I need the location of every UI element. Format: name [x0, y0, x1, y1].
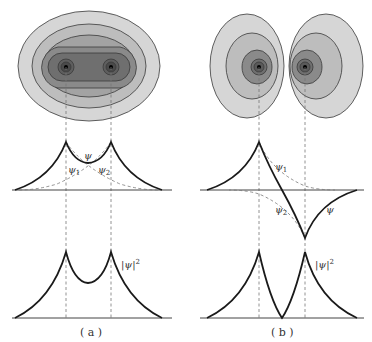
panel-b: ψ1 ψ2 ψ |ψ|2 ( b ): [200, 14, 364, 339]
density-curve: [207, 252, 357, 318]
psi2-label: ψ2: [275, 204, 287, 217]
psi-label: ψ: [326, 204, 334, 215]
density-label: |ψ|2: [121, 258, 140, 271]
panel-b-wavefunction-plot: ψ1 ψ2 ψ: [200, 142, 364, 238]
density-label: |ψ|2: [315, 258, 334, 271]
panel-b-density-plot: |ψ|2 ( b ): [200, 252, 364, 339]
panel-a: ψ ψ1 ψ2 |ψ|2 ( a ): [12, 11, 172, 339]
panel-a-density-plot: |ψ|2 ( a ): [12, 252, 172, 339]
orbital-diagram: ψ ψ1 ψ2 |ψ|2 ( a ): [0, 0, 372, 342]
caption-b: ( b ): [271, 326, 294, 339]
psi-label: ψ: [84, 150, 92, 161]
panel-b-contour-plot: [210, 14, 363, 118]
panel-a-wavefunction-plot: ψ ψ1 ψ2: [12, 142, 172, 190]
psi2-label: ψ2: [98, 164, 110, 177]
caption-a: ( a ): [80, 326, 102, 339]
panel-a-contour-plot: [18, 11, 160, 121]
psi1-label: ψ1: [275, 161, 287, 174]
